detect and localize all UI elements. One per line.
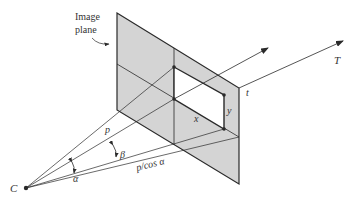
label-C: C	[10, 182, 18, 194]
image-plane-label-line1: Image	[75, 11, 101, 22]
image-plane-label-line2: plane	[75, 24, 97, 35]
ray-to-bottom-right	[26, 129, 224, 188]
projection-diagram: Image plane C T t y x p β α p/cos α	[0, 0, 354, 198]
label-p: p	[104, 124, 110, 135]
center-point-C	[24, 186, 28, 190]
label-x: x	[193, 113, 199, 124]
window-vertex-top-right	[222, 93, 226, 97]
label-beta: β	[119, 149, 125, 160]
label-T: T	[334, 54, 341, 66]
alpha-arc	[72, 162, 74, 173]
label-p-cos-alpha: p/cos α	[134, 155, 166, 173]
beta-arc	[113, 145, 116, 157]
label-y: y	[226, 105, 232, 116]
label-alpha: α	[73, 173, 79, 184]
image-plane-leader-arrow	[92, 38, 109, 44]
axis-T-arrow	[239, 41, 343, 88]
label-t: t	[246, 87, 249, 98]
ray-p	[26, 99, 174, 188]
